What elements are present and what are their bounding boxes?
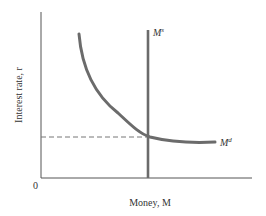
money-demand-label: Md bbox=[219, 136, 232, 148]
origin-label: 0 bbox=[33, 180, 38, 191]
money-supply-label: Ms bbox=[152, 26, 164, 38]
x-axis-label: Money, M bbox=[129, 197, 171, 208]
y-axis-label: Interest rate, r bbox=[13, 66, 24, 122]
money-market-chart: Ms Md 0 Money, M Interest rate, r bbox=[0, 0, 266, 216]
